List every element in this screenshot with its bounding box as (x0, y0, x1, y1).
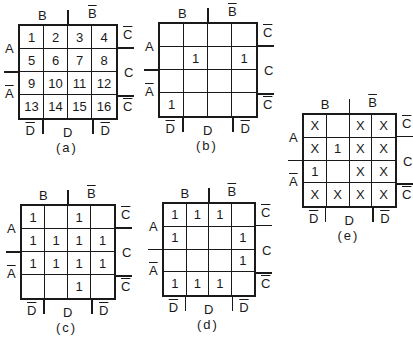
kmap-cell: X (372, 161, 395, 184)
label-a: A (149, 220, 158, 233)
kmap-cell (22, 275, 45, 298)
kmap-cell: 16 (92, 95, 116, 118)
kmap-cell (327, 115, 350, 138)
label-c: C (122, 246, 131, 259)
tick-bottom-2 (232, 118, 234, 132)
label-d-bar-left: D (169, 301, 178, 314)
kmap-caption: (b) (196, 138, 218, 153)
kmap-cell: 1 (184, 47, 208, 70)
label-d-bar-left: D (309, 212, 318, 225)
kmap-cell: 1 (232, 227, 255, 250)
tick-right-2 (258, 93, 274, 95)
kmap-cell: 4 (92, 26, 116, 49)
kmap-cell: 14 (44, 95, 68, 118)
kmap-caption: (a) (56, 140, 78, 155)
tick-right-1 (258, 45, 274, 47)
kmap-cell: X (350, 161, 373, 184)
kmap-cell: 1 (91, 229, 114, 252)
kmap-grid: 111 (158, 22, 258, 118)
tick-bottom-2 (92, 120, 94, 134)
label-d: D (345, 214, 354, 227)
kmap-cell: 1 (232, 250, 255, 273)
kmap-cell: 7 (68, 49, 92, 72)
label-d: D (63, 306, 72, 319)
label-a: A (5, 42, 14, 55)
kmap-cell: X (304, 115, 327, 138)
tick-left (288, 160, 302, 162)
label-a: A (145, 40, 154, 53)
tick-top (349, 99, 351, 113)
kmap-cell (184, 24, 208, 47)
label-d: D (204, 303, 213, 316)
label-b: B (321, 98, 330, 111)
label-b: B (38, 9, 47, 22)
label-c-bar-bottom: C (263, 98, 272, 111)
tick-left (148, 249, 162, 251)
kmap-cell: X (372, 115, 395, 138)
kmap-grid: 12345678910111213141516 (18, 24, 118, 120)
kmap-cell (184, 70, 208, 93)
kmap-cell (45, 275, 68, 298)
kmap-cell (45, 206, 68, 229)
kmap-cell: X (304, 183, 327, 206)
kmap-cell (160, 24, 184, 47)
kmap-cell: 3 (68, 26, 92, 49)
tick-bottom-1 (325, 208, 327, 222)
kmap-grid: 11111111111 (20, 204, 116, 300)
label-b-bar: B (87, 187, 96, 200)
kmap-cell (209, 227, 232, 250)
kmap-cell (208, 70, 232, 93)
kmap-cell: 1 (22, 252, 45, 275)
label-c: C (264, 64, 273, 77)
kmap-cell: X (350, 138, 373, 161)
label-b: B (181, 187, 190, 200)
kmap-cell: 1 (91, 252, 114, 275)
kmap-cell: 1 (68, 206, 91, 229)
kmap-cell: 1 (187, 272, 210, 295)
kmap-cell: 1 (164, 227, 187, 250)
kmap-cell: 8 (92, 49, 116, 72)
tick-bottom-1 (182, 118, 184, 132)
label-d-bar-right: D (239, 301, 248, 314)
label-a-bar: A (5, 87, 14, 100)
label-d-bar-right: D (101, 124, 110, 137)
tick-top (208, 188, 210, 202)
kmap-caption: (c) (56, 320, 77, 335)
kmap-cell: 1 (22, 229, 45, 252)
kmap-cell: 1 (164, 272, 187, 295)
tick-right-1 (116, 227, 132, 229)
tick-right-1 (118, 47, 134, 49)
label-d-bar-left: D (27, 304, 36, 317)
kmap-cell (208, 93, 232, 116)
kmap-cell: 1 (45, 229, 68, 252)
label-d-bar-right: D (99, 304, 108, 317)
tick-right-1 (256, 225, 272, 227)
label-c-bar-bottom: C (261, 277, 270, 290)
kmap-cell: 1 (160, 93, 184, 116)
label-d-bar-left: D (26, 124, 35, 137)
label-a: A (7, 222, 16, 235)
tick-left (6, 251, 20, 253)
tick-left (144, 69, 158, 71)
tick-top (207, 8, 209, 22)
label-b: B (178, 7, 187, 20)
label-b: B (39, 189, 48, 202)
tick-right-2 (397, 183, 413, 185)
label-b-bar: B (88, 7, 97, 20)
label-a-bar: A (149, 264, 158, 277)
kmap-cell (327, 161, 350, 184)
kmap-cell: 1 (68, 252, 91, 275)
label-c: C (403, 155, 412, 168)
kmap-cell: 1 (209, 204, 232, 227)
kmap-cell (164, 250, 187, 273)
kmap-cell: X (327, 183, 350, 206)
kmap-grid: 111111111 (162, 202, 256, 297)
kmap-cell: 1 (22, 206, 45, 229)
tick-bottom-2 (372, 208, 374, 222)
label-c-bar-bottom: C (121, 280, 130, 293)
tick-right-2 (116, 275, 132, 277)
kmap-cell: 1 (327, 138, 350, 161)
tick-bottom-2 (232, 297, 234, 311)
label-c-bar-bottom: C (402, 188, 411, 201)
kmap-cell (208, 47, 232, 70)
